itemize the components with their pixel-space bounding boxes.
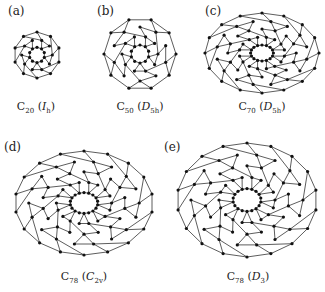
panel-caption-e: C78 (D3) [227,270,270,285]
atom-count: 78 [235,277,244,285]
fullerene-structure-e [0,0,325,292]
point-group: D [252,270,261,283]
paren-close: ) [265,270,269,283]
paren-open: ( [244,270,252,283]
